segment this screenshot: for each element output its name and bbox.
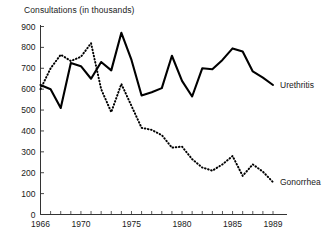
- y-axis-tick-label: 800: [21, 42, 35, 52]
- y-axis-tick-label: 600: [21, 84, 35, 94]
- x-axis-tick-label: 1989: [264, 219, 283, 229]
- x-axis: 196619701975198019851989: [31, 211, 287, 229]
- x-axis-tick-label: 1985: [223, 219, 242, 229]
- y-axis-tick-label: 500: [21, 105, 35, 115]
- y-axis-tick-label: 400: [21, 126, 35, 136]
- x-axis-tick-label: 1970: [71, 219, 90, 229]
- y-axis: 0100200300400500600700800900: [21, 22, 44, 220]
- chart-container: Consultations (in thousands) 01002003004…: [0, 0, 325, 245]
- y-axis-tick-label: 900: [21, 22, 35, 32]
- x-axis-tick-label: 1980: [173, 219, 192, 229]
- y-axis-tick-label: 100: [21, 189, 35, 199]
- x-axis-tick-label: 1975: [122, 219, 141, 229]
- series-labels: UrethritisGonorrhea: [280, 80, 321, 187]
- y-axis-tick-label: 200: [21, 168, 35, 178]
- series-label-urethritis: Urethritis: [280, 80, 314, 90]
- x-axis-tick-label: 1966: [31, 219, 50, 229]
- series-lines: [41, 33, 274, 182]
- line-chart-plot: 0100200300400500600700800900 19661970197…: [0, 0, 325, 245]
- y-axis-tick-label: 300: [21, 147, 35, 157]
- series-line-urethritis: [41, 33, 274, 108]
- y-axis-tick-label: 700: [21, 63, 35, 73]
- series-label-gonorrhea: Gonorrhea: [280, 177, 321, 187]
